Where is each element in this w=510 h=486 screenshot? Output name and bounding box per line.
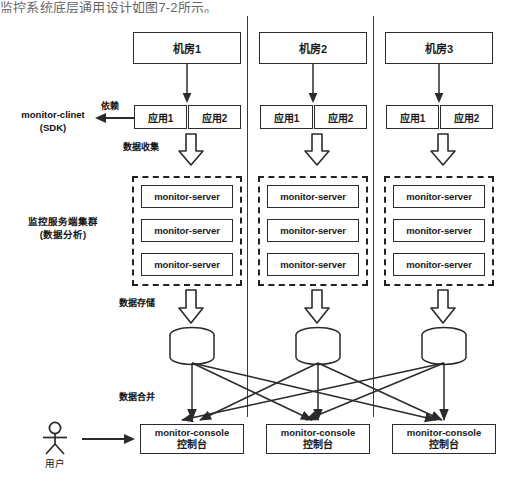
monitor-console-name-1: monitor-console bbox=[155, 427, 229, 439]
diagram-canvas: 监控系统底层通用设计如图7-2所示。 机房1 应用1 应用2 依赖 monito… bbox=[0, 0, 510, 486]
user-label: 用户 bbox=[38, 456, 72, 470]
monitor-console-2[interactable]: monitor-console 控制台 bbox=[266, 424, 370, 454]
monitor-console-cn-3: 控制台 bbox=[429, 439, 459, 452]
monitor-console-3[interactable]: monitor-console 控制台 bbox=[392, 424, 496, 454]
monitor-console-cn-2: 控制台 bbox=[303, 439, 333, 452]
monitor-console-cn-1: 控制台 bbox=[177, 439, 207, 452]
arrow-user-to-console bbox=[82, 432, 136, 446]
monitor-console-1[interactable]: monitor-console 控制台 bbox=[140, 424, 244, 454]
user-actor-icon bbox=[38, 421, 72, 455]
monitor-console-name-2: monitor-console bbox=[281, 427, 355, 439]
monitor-console-name-3: monitor-console bbox=[407, 427, 481, 439]
data-merge-mesh bbox=[0, 0, 510, 486]
